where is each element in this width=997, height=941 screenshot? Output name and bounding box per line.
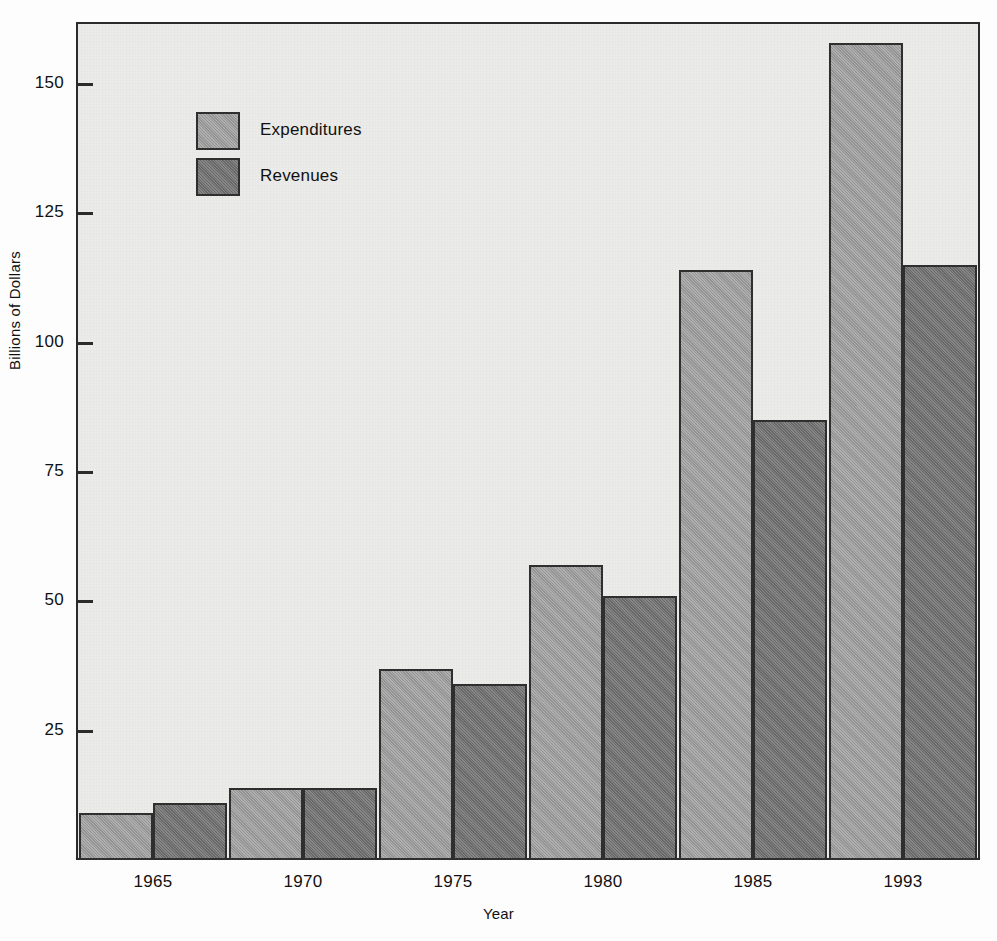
y-axis-tick [76,600,93,603]
bar-revenues-1965 [153,803,227,860]
bar-revenues-1985 [753,420,827,860]
y-axis-tick [76,83,93,86]
y-axis-tick [76,471,93,474]
legend-item-label: Expenditures [260,120,362,140]
bar-revenues-1993 [903,265,977,860]
dark-gray-swatch [196,158,240,196]
legend-item-label: Revenues [260,166,338,186]
x-axis-title: Year [0,905,997,922]
y-axis-tick [76,212,93,215]
bar-expenditures-1980 [529,565,603,860]
bar-revenues-1975 [453,684,527,860]
y-axis-tick [76,730,93,733]
bar-expenditures-1993 [829,43,903,860]
y-axis-tick [76,342,93,345]
y-axis-tick-label: 125 [2,202,64,222]
x-axis-tick-label: 1975 [383,872,523,892]
y-axis-tick-label: 100 [2,332,64,352]
bar-revenues-1970 [303,788,377,860]
x-axis-tick-label: 1993 [833,872,973,892]
x-axis-tick-label: 1980 [533,872,673,892]
bar-revenues-1980 [603,596,677,860]
bar-expenditures-1965 [79,813,153,860]
y-axis-tick-label: 50 [2,590,64,610]
x-axis-tick-label: 1965 [83,872,223,892]
x-axis-tick-label: 1970 [233,872,373,892]
bar-chart-figure: Billions of Dollars 255075100125150 1965… [0,0,997,941]
bar-expenditures-1975 [379,669,453,860]
y-axis-tick-label: 75 [2,461,64,481]
y-axis-tick-label: 150 [2,73,64,93]
light-gray-swatch [196,112,240,150]
bar-expenditures-1970 [229,788,303,860]
bar-expenditures-1985 [679,270,753,860]
y-axis-tick-label: 25 [2,720,64,740]
x-axis-tick-label: 1985 [683,872,823,892]
